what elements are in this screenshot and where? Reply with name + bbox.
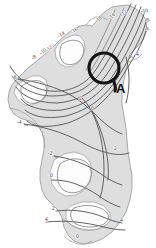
contour-label: 2	[52, 205, 55, 211]
contour-label: -6	[12, 74, 17, 80]
contour-label: -6	[144, 25, 150, 32]
contour-label: 0	[91, 105, 94, 111]
contour-label: -10	[140, 7, 148, 14]
contour-label: 2	[114, 145, 117, 151]
contour-label: 2	[79, 95, 82, 101]
contour-label: 0	[76, 233, 79, 239]
contour-label: 0	[50, 172, 53, 178]
contour-label: -4	[17, 119, 22, 125]
contour-map-canvas: -18 -14 -12 -10 -8 -6 -16 -14 -12 -10 -8…	[0, 0, 156, 248]
contour-map-figure: -18 -14 -12 -10 -8 -6 -16 -14 -12 -10 -8…	[0, 0, 156, 248]
contour-label: -8	[144, 16, 150, 23]
contour-label: -8	[30, 53, 37, 61]
contour-label: 4	[120, 217, 123, 223]
interior-basin-southeast	[66, 202, 110, 230]
contour-label: 4	[45, 216, 48, 222]
point-of-interest-label: A	[116, 81, 126, 96]
contour-label: 4	[136, 51, 139, 57]
contour-label: -2	[48, 150, 53, 156]
